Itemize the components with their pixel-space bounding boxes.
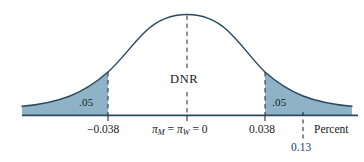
right-critical-value-label: 0.038 — [249, 124, 275, 136]
normal-curve-figure: .05 .05 DNR −0.038 πM = πW = 0 0.038 Per… — [0, 0, 364, 162]
observed-value-label: 0.13 — [291, 142, 311, 154]
pi-subscript-men: M — [158, 128, 165, 137]
do-not-reject-label: DNR — [170, 73, 198, 86]
left-rejection-region — [22, 72, 108, 115]
pi-subscript-women: W — [183, 128, 190, 137]
null-hypothesis-label: πM = πW = 0 — [152, 124, 208, 138]
right-rejection-region — [265, 72, 352, 115]
left-critical-value-label: −0.038 — [87, 124, 119, 136]
left-tail-area-label: .05 — [79, 97, 93, 108]
x-axis-label: Percent — [314, 124, 348, 136]
equals-sign-1: = — [168, 123, 175, 135]
right-tail-area-label: .05 — [272, 97, 286, 108]
equals-zero: = 0 — [192, 123, 207, 135]
